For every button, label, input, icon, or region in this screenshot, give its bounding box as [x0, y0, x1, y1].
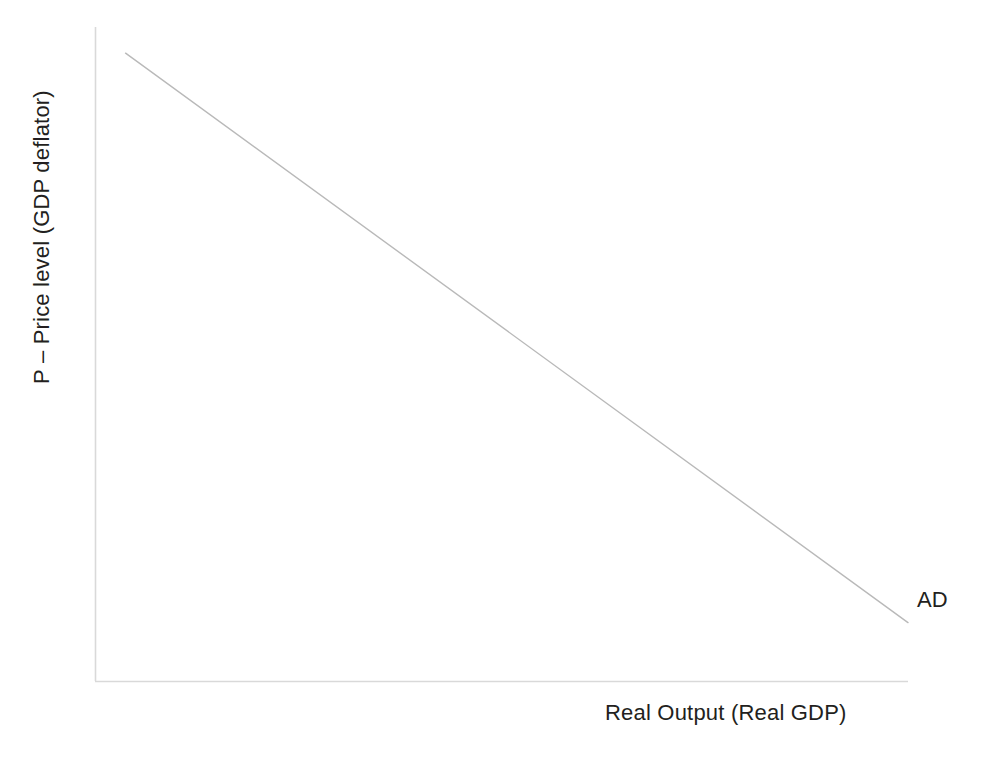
y-axis-label: P – Price level (GDP deflator) — [0, 0, 84, 770]
ad-curve-label: AD — [917, 587, 948, 613]
aggregate-demand-chart: P – Price level (GDP deflator) Real Outp… — [0, 0, 988, 770]
chart-plot-area — [0, 0, 988, 770]
y-axis-label-text: P – Price level (GDP deflator) — [29, 90, 55, 384]
x-axis-label: Real Output (Real GDP) — [605, 700, 847, 726]
ad-curve-line — [126, 53, 908, 622]
